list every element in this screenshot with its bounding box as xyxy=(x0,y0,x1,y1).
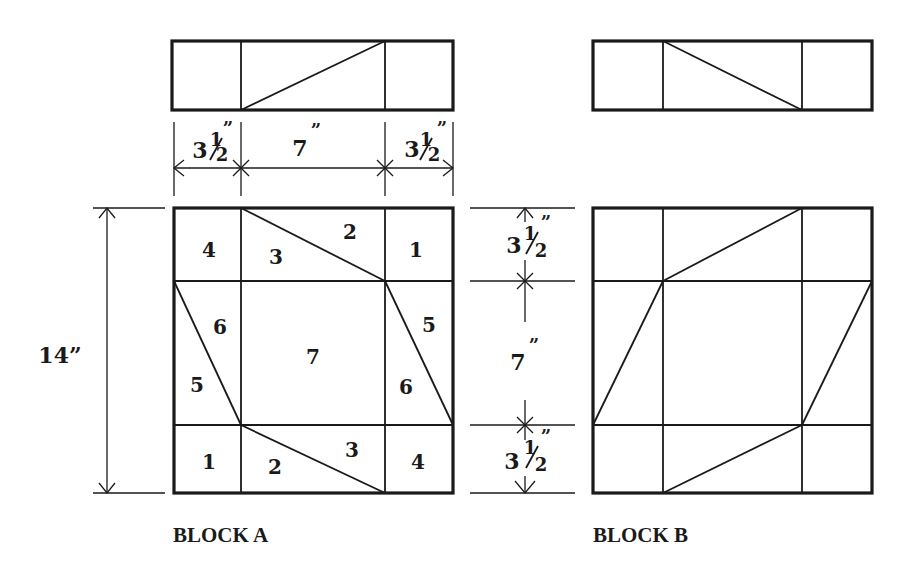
piece-number: 1 xyxy=(409,238,423,262)
horizontal-dimensions: 3 1 2 ” 7 ” 3 1 2 ” xyxy=(174,118,453,197)
piece-number: 2 xyxy=(268,455,282,479)
block-b-outline xyxy=(593,208,872,493)
dim-frac-den: 2 xyxy=(535,454,548,475)
quilt-block-diagram: 3 1 2 ” 7 ” 3 1 2 ” 14” xyxy=(0,0,920,578)
dimension-label-3-5-right: 3 1 2 ” xyxy=(404,118,447,165)
dim-frac-den: 2 xyxy=(428,144,441,165)
diagonal-seam xyxy=(174,281,241,425)
piece-number: 7 xyxy=(306,345,320,369)
dim-unit: ” xyxy=(223,118,233,139)
block-a-caption: BLOCK A xyxy=(173,523,269,547)
piece-number: 4 xyxy=(411,450,425,474)
piece-number: 6 xyxy=(399,375,413,399)
dim-whole: 3 xyxy=(192,137,207,163)
dim-frac-den: 2 xyxy=(535,240,548,261)
piece-number: 1 xyxy=(202,450,216,474)
dimension-label-7-vertical: 7 ” xyxy=(510,335,539,376)
dim-whole: 7 xyxy=(510,349,525,375)
dim-unit: ” xyxy=(541,212,551,233)
vertical-dimensions: 3 1 2 ” 7 ” 3 1 2 ” xyxy=(470,208,575,493)
dim-unit: ” xyxy=(529,335,539,356)
piece-number: 6 xyxy=(213,315,227,339)
total-height-dimension: 14” xyxy=(38,208,165,493)
strip-b xyxy=(593,41,872,110)
diagonal-seam xyxy=(663,208,802,281)
block-a: 4 3 2 1 6 5 7 5 6 1 2 3 4 xyxy=(174,208,453,493)
dim-whole: 3 xyxy=(404,136,419,162)
dim-unit: ” xyxy=(437,118,447,139)
dim-whole: 3 xyxy=(504,448,519,474)
diagonal-seam xyxy=(663,425,802,493)
diagonal-seam xyxy=(802,281,872,425)
diagonal-seam xyxy=(241,425,385,493)
piece-number: 2 xyxy=(343,220,357,244)
piece-number: 3 xyxy=(345,438,359,462)
diagonal-seam xyxy=(593,281,663,425)
dim-unit: ” xyxy=(311,120,321,141)
dim-unit: ” xyxy=(541,426,551,447)
dim-whole: 3 xyxy=(506,232,521,258)
piece-number: 5 xyxy=(422,313,436,337)
strip-a xyxy=(172,41,453,110)
block-b-caption: BLOCK B xyxy=(593,523,688,547)
dimension-label-7: 7 ” xyxy=(292,120,321,162)
dimension-label-3-5-left: 3 1 2 ” xyxy=(192,118,233,165)
block-b xyxy=(593,208,872,493)
strip-a-diagonal xyxy=(241,41,385,110)
dim-frac-den: 2 xyxy=(216,144,229,165)
dim-whole: 7 xyxy=(292,135,307,161)
piece-number: 3 xyxy=(269,245,283,269)
strip-b-diagonal xyxy=(663,41,802,110)
piece-number: 5 xyxy=(190,373,204,397)
dim-label-14-inch: 14” xyxy=(38,342,81,368)
diagonal-seam xyxy=(385,281,453,425)
piece-number: 4 xyxy=(202,238,216,262)
dimension-label-3-5-top: 3 1 2 ” xyxy=(506,212,551,261)
dimension-label-3-5-bottom: 3 1 2 ” xyxy=(504,426,551,475)
diagonal-seam xyxy=(241,208,385,281)
